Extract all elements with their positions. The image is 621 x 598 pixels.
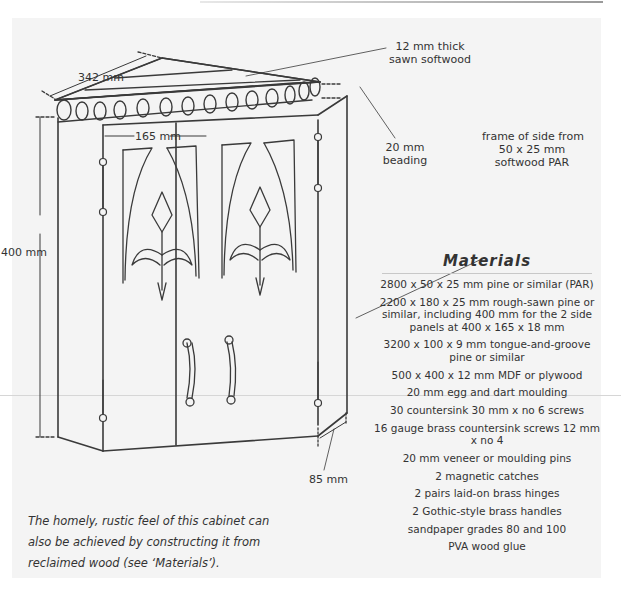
material-item: 500 x 400 x 12 mm MDF or plywood — [372, 369, 602, 382]
label-side-width: 85 mm — [309, 473, 348, 486]
material-item: 2 pairs laid-on brass hinges — [372, 487, 602, 500]
material-item: 20 mm veneer or moulding pins — [372, 452, 602, 465]
label-side-frame: frame of side from 50 x 25 mm softwood P… — [482, 130, 582, 169]
cabinet-body — [58, 96, 347, 451]
gothic-tracery-right-door — [222, 140, 296, 295]
material-item: 2800 x 50 x 25 mm pine or similar (PAR) — [372, 278, 602, 291]
material-item: 2200 x 180 x 25 mm rough-sawn pine or si… — [372, 296, 602, 334]
materials-items: 2800 x 50 x 25 mm pine or similar (PAR) … — [372, 278, 602, 553]
material-item: 30 countersink 30 mm x no 6 screws — [372, 404, 602, 417]
label-top-depth: 342 mm — [78, 71, 124, 84]
materials-heading: Materials — [382, 252, 592, 274]
material-item: 16 gauge brass countersink screws 12 mm … — [372, 422, 602, 447]
material-item: 2 Gothic-style brass handles — [372, 505, 602, 518]
material-item: 20 mm egg and dart moulding — [372, 386, 602, 399]
label-door-width: 165 mm — [135, 130, 181, 143]
material-item: 2 magnetic catches — [372, 470, 602, 483]
door-handles — [183, 336, 236, 406]
gothic-tracery-left-door — [123, 146, 199, 300]
material-item: 3200 x 100 x 9 mm tongue-and-groove pine… — [372, 338, 602, 363]
materials-list: Materials 2800 x 50 x 25 mm pine or simi… — [372, 252, 602, 558]
dimension-lines — [36, 84, 346, 446]
label-beading: 20 mm beading — [380, 141, 430, 167]
hinges — [100, 134, 322, 422]
figure-caption: The homely, rustic feel of this cabinet … — [28, 511, 278, 574]
label-top-material: 12 mm thick sawn softwood — [388, 40, 472, 66]
label-height: 400 mm — [1, 246, 47, 259]
material-item: PVA wood glue — [372, 540, 602, 553]
material-item: sandpaper grades 80 and 100 — [372, 523, 602, 536]
